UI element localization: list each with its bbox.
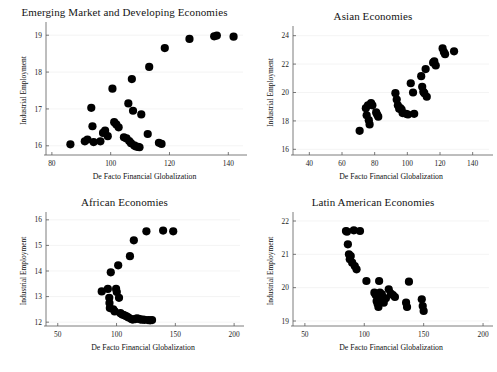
y-tick-label: 21 xyxy=(282,250,290,259)
figure-container: Emerging Market and Developing Economies… xyxy=(0,0,497,372)
x-tick-label: 200 xyxy=(478,330,489,339)
x-tick-label: 200 xyxy=(229,330,240,339)
x-tick-label: 150 xyxy=(418,330,429,339)
y-axis-title: Industrial Employment xyxy=(266,57,275,126)
scatter-plot-latin-american: 1920212250100150200De Facto Financial Gl… xyxy=(249,186,497,372)
data-point xyxy=(362,277,370,285)
data-point xyxy=(145,63,153,71)
data-point xyxy=(368,101,376,109)
y-tick-label: 19 xyxy=(282,317,290,326)
data-point xyxy=(126,252,134,260)
x-tick-label: 100 xyxy=(105,159,116,168)
data-point xyxy=(407,79,415,87)
data-point xyxy=(343,228,351,236)
data-point xyxy=(157,140,165,148)
data-point xyxy=(405,278,413,286)
data-point xyxy=(135,143,143,151)
y-axis-title: Industrial Employment xyxy=(266,236,275,305)
data-point xyxy=(450,47,458,55)
x-tick-label: 100 xyxy=(111,330,122,339)
data-point xyxy=(148,316,156,324)
data-point xyxy=(96,137,104,145)
panel-african: African Economies 121314151650100150200D… xyxy=(0,186,249,372)
data-point xyxy=(142,227,150,235)
x-tick-label: 40 xyxy=(306,159,314,168)
data-point xyxy=(352,265,360,273)
x-tick-label: 80 xyxy=(48,159,56,168)
data-point xyxy=(356,227,364,235)
data-point xyxy=(137,110,145,118)
data-point xyxy=(229,33,237,41)
y-tick-label: 15 xyxy=(35,241,43,250)
data-point xyxy=(409,88,417,96)
data-point xyxy=(107,268,115,276)
data-point xyxy=(356,127,364,135)
x-tick-label: 140 xyxy=(467,159,478,168)
y-axis-title: Industrial Employment xyxy=(19,55,28,124)
y-tick-label: 18 xyxy=(35,68,43,77)
scatter-plot-asian: 1618202224406080100120140De Facto Financ… xyxy=(249,0,497,186)
scatter-plot-african: 121314151650100150200De Facto Financial … xyxy=(0,186,249,372)
x-tick-label: 140 xyxy=(223,159,234,168)
x-tick-label: 120 xyxy=(434,159,445,168)
y-tick-label: 18 xyxy=(282,117,290,126)
x-tick-label: 100 xyxy=(402,159,413,168)
y-tick-label: 20 xyxy=(282,88,290,97)
data-point xyxy=(432,61,440,69)
data-point xyxy=(422,65,430,73)
data-point xyxy=(104,285,112,293)
data-point xyxy=(128,75,136,83)
data-point xyxy=(88,122,96,130)
data-point xyxy=(374,113,382,121)
x-tick-label: 50 xyxy=(54,330,62,339)
data-point xyxy=(213,31,221,39)
y-tick-label: 16 xyxy=(35,141,43,150)
y-tick-label: 16 xyxy=(35,215,43,224)
data-point xyxy=(441,50,449,58)
data-point xyxy=(344,240,352,248)
y-tick-label: 22 xyxy=(282,217,290,226)
x-tick-label: 100 xyxy=(359,330,370,339)
data-point xyxy=(115,294,123,302)
y-tick-label: 16 xyxy=(282,145,290,154)
data-point xyxy=(423,93,431,101)
data-point xyxy=(403,303,411,311)
data-point xyxy=(417,72,425,80)
data-point xyxy=(366,120,374,128)
y-tick-label: 20 xyxy=(282,283,290,292)
y-tick-label: 12 xyxy=(35,318,43,327)
data-point xyxy=(87,104,95,112)
x-axis-title: De Facto Financial Globalization xyxy=(339,343,443,352)
y-tick-label: 14 xyxy=(35,267,43,276)
panel-emerging-market: Emerging Market and Developing Economies… xyxy=(0,0,249,186)
x-tick-label: 80 xyxy=(371,159,379,168)
y-tick-label: 24 xyxy=(282,31,290,40)
x-tick-label: 50 xyxy=(301,330,309,339)
data-point xyxy=(391,293,399,301)
panel-latin-american: Latin American Economies 192021225010015… xyxy=(249,186,497,372)
data-point xyxy=(410,110,418,118)
data-point xyxy=(161,44,169,52)
data-point xyxy=(108,85,116,93)
panel-asian: Asian Economies 161820222440608010012014… xyxy=(249,0,497,186)
y-axis-title: Industrial Employment xyxy=(19,236,28,305)
y-tick-label: 17 xyxy=(35,105,43,114)
y-tick-label: 22 xyxy=(282,60,290,69)
data-point xyxy=(375,277,383,285)
data-point xyxy=(144,130,152,138)
data-point xyxy=(115,123,123,131)
x-tick-label: 60 xyxy=(338,159,346,168)
data-point xyxy=(169,227,177,235)
x-axis-title: De Facto Financial Globalization xyxy=(91,343,195,352)
y-tick-label: 13 xyxy=(35,292,43,301)
data-point xyxy=(130,236,138,244)
x-axis-title: De Facto Financial Globalization xyxy=(93,172,197,181)
data-point xyxy=(159,226,167,234)
data-point xyxy=(124,99,132,107)
data-point xyxy=(129,107,137,115)
scatter-plot-emerging-market: 1617181980100120140De Facto Financial Gl… xyxy=(0,0,249,186)
x-tick-label: 150 xyxy=(170,330,181,339)
data-point xyxy=(104,132,112,140)
x-tick-label: 120 xyxy=(164,159,175,168)
x-axis-title: De Facto Financial Globalization xyxy=(339,172,443,181)
